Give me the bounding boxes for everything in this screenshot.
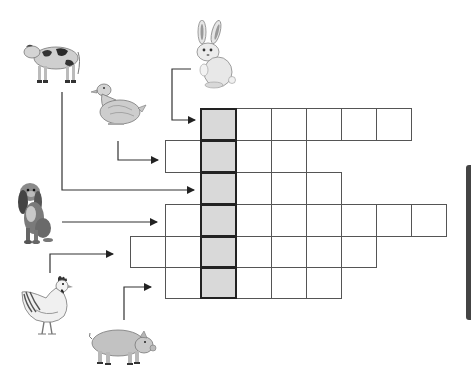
grid-cell[interactable] [341, 204, 377, 237]
grid-cell[interactable] [236, 267, 272, 299]
cow-icon [22, 38, 84, 86]
grid-cell[interactable] [376, 204, 412, 237]
grid-cell[interactable] [306, 236, 342, 268]
grid-cell[interactable] [411, 204, 447, 237]
grid-cell[interactable] [341, 236, 377, 268]
grid-cell-shaded[interactable] [200, 140, 237, 173]
page-edge-bar [466, 165, 471, 320]
grid-cell[interactable] [165, 140, 201, 173]
pig-icon [88, 323, 158, 369]
grid-cell-shaded[interactable] [200, 236, 237, 268]
grid-cell[interactable] [306, 108, 342, 141]
hen-arrow [50, 254, 113, 273]
grid-cell[interactable] [341, 108, 377, 141]
grid-cell-shaded[interactable] [200, 172, 237, 205]
grid-cell[interactable] [271, 108, 307, 141]
grid-cell[interactable] [236, 236, 272, 268]
grid-cell[interactable] [165, 267, 201, 299]
grid-cell[interactable] [236, 108, 272, 141]
grid-cell[interactable] [236, 140, 272, 173]
grid-cell[interactable] [130, 236, 166, 268]
hen-icon [20, 274, 80, 340]
pig-arrow [124, 287, 151, 320]
grid-cell[interactable] [271, 236, 307, 268]
grid-cell[interactable] [306, 267, 342, 299]
grid-cell-shaded[interactable] [200, 108, 237, 141]
crossword-worksheet [0, 0, 471, 376]
grid-cell-shaded[interactable] [200, 204, 237, 237]
rabbit-icon [192, 20, 238, 90]
grid-cell[interactable] [306, 172, 342, 205]
grid-cell[interactable] [376, 108, 412, 141]
grid-cell[interactable] [271, 267, 307, 299]
grid-cell[interactable] [236, 204, 272, 237]
grid-cell[interactable] [165, 204, 201, 237]
grid-cell[interactable] [236, 172, 272, 205]
grid-cell[interactable] [271, 172, 307, 205]
grid-cell[interactable] [271, 204, 307, 237]
duck-icon [90, 80, 148, 130]
dog-icon [16, 180, 56, 246]
grid-cell[interactable] [271, 140, 307, 173]
grid-cell-shaded[interactable] [200, 267, 237, 299]
grid-cell[interactable] [165, 236, 201, 268]
duck-arrow [118, 141, 158, 160]
grid-cell[interactable] [306, 204, 342, 237]
